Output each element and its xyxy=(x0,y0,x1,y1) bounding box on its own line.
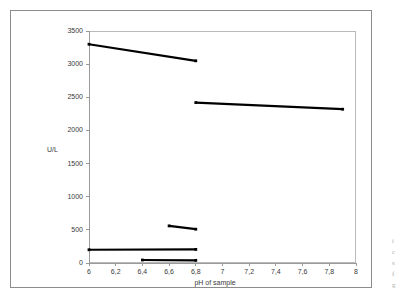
series-endpoint-marker xyxy=(88,248,91,251)
series-endpoint-marker xyxy=(194,228,197,231)
data-series xyxy=(168,224,198,230)
series-endpoint-marker xyxy=(88,43,91,46)
data-series xyxy=(194,101,344,110)
y-axis-tick-label: 500 xyxy=(49,226,83,233)
x-axis-tick-label: 8 xyxy=(343,268,369,275)
y-axis-tick-label: 1500 xyxy=(49,160,83,167)
side-caption-line-2: c xyxy=(392,247,415,258)
x-axis-tick-label: 7,6 xyxy=(290,268,316,275)
side-caption-fragment: i c s f g xyxy=(392,236,415,288)
series-endpoint-marker xyxy=(194,59,197,62)
side-caption-line-1: i xyxy=(392,236,415,247)
data-series xyxy=(88,248,198,251)
y-axis-tick-label: 0 xyxy=(49,259,83,266)
x-axis-tick-label: 6,6 xyxy=(156,268,182,275)
y-axis-tick-label: 1000 xyxy=(49,193,83,200)
axis-layer xyxy=(86,31,356,266)
y-axis-title: U/L xyxy=(47,146,58,153)
series-endpoint-marker xyxy=(168,224,171,227)
x-axis-tick-label: 6 xyxy=(76,268,102,275)
series-endpoint-marker xyxy=(194,248,197,251)
series-line xyxy=(169,226,196,229)
y-axis-tick-label: 2500 xyxy=(49,93,83,100)
x-axis-title: pH of sample xyxy=(150,279,280,286)
y-axis-tick-label: 3500 xyxy=(49,27,83,34)
y-axis-tick-label: 2000 xyxy=(49,126,83,133)
x-axis-tick-label: 7 xyxy=(210,268,236,275)
x-axis-tick-label: 6,2 xyxy=(103,268,129,275)
side-caption-line-4: f xyxy=(392,269,415,280)
y-axis-tick-label: 3000 xyxy=(49,60,83,67)
series-layer xyxy=(88,43,344,262)
chart-canvas xyxy=(0,0,415,300)
series-line xyxy=(196,103,343,110)
data-series xyxy=(88,43,198,62)
side-caption-line-5: g xyxy=(392,280,415,288)
series-line xyxy=(89,44,196,61)
x-axis-tick-label: 6,8 xyxy=(183,268,209,275)
x-axis-tick-label: 7,8 xyxy=(316,268,342,275)
series-endpoint-marker xyxy=(194,101,197,104)
series-endpoint-marker xyxy=(141,259,144,262)
x-axis-tick-label: 6,4 xyxy=(129,268,155,275)
chart-page: 0500100015002000250030003500 66,26,46,66… xyxy=(0,0,415,300)
x-axis-tick-label: 7,2 xyxy=(236,268,262,275)
series-endpoint-marker xyxy=(341,108,344,111)
x-axis-tick-label: 7,4 xyxy=(263,268,289,275)
data-series xyxy=(141,259,197,262)
side-caption-line-3: s xyxy=(392,258,415,269)
series-endpoint-marker xyxy=(194,259,197,262)
